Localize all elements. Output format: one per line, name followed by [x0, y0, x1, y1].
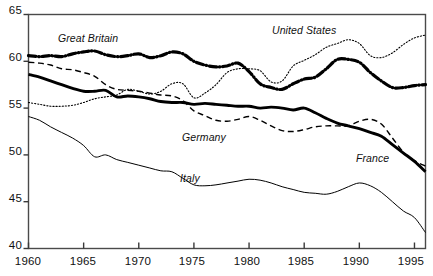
- chart-container: 65 60 55 50 45 40 1960 1965 1970 1975 19…: [0, 0, 433, 276]
- x-tick-label: 1965: [63, 255, 103, 267]
- y-tick-label: 45: [0, 192, 22, 204]
- x-tick-label: 1980: [227, 255, 267, 267]
- x-tick-label: 1960: [8, 255, 48, 267]
- series-label-great-britain: Great Britain: [58, 32, 118, 44]
- y-tick-label: 55: [0, 98, 22, 110]
- series-line-great-britain: [29, 51, 426, 90]
- y-tick-label: 60: [0, 51, 22, 63]
- series-line-united-states: [29, 35, 426, 106]
- y-tick-label: 50: [0, 145, 22, 157]
- series-line-italy: [29, 117, 426, 233]
- x-tick-label: 1970: [118, 255, 158, 267]
- series-label-germany: Germany: [182, 131, 226, 143]
- x-tick-label: 1975: [172, 255, 212, 267]
- series-label-france: France: [356, 152, 389, 164]
- x-tick-label: 1990: [336, 255, 376, 267]
- y-tick-label: 65: [0, 4, 22, 16]
- x-tick-label: 1985: [281, 255, 321, 267]
- x-tick-label: 1995: [391, 255, 431, 267]
- series-label-italy: Italy: [180, 172, 200, 184]
- y-tick-label: 40: [0, 239, 22, 251]
- series-label-united-states: United States: [272, 24, 336, 36]
